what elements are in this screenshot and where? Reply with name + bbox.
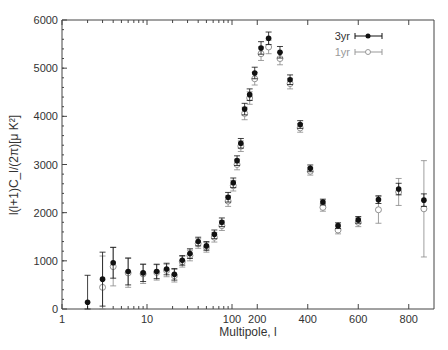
svg-text:800: 800 [400, 313, 418, 325]
svg-text:1000: 1000 [34, 255, 58, 267]
legend-label-3yr: 3yr [335, 30, 351, 42]
svg-text:6000: 6000 [34, 14, 58, 26]
svg-text:5000: 5000 [34, 62, 58, 74]
svg-text:4000: 4000 [34, 110, 58, 122]
plot-frame [62, 20, 434, 309]
svg-text:0: 0 [52, 303, 58, 315]
axis-ticks: 0100020003000400050006000110100200400600… [34, 14, 418, 325]
legend-marker-1yr-icon [355, 49, 382, 55]
legend: 3yr 1yr [335, 30, 382, 58]
legend-label-1yr: 1yr [335, 46, 351, 58]
y-axis-label: l(l+1)C_l/(2π)[μ K²] [7, 115, 21, 215]
svg-text:1: 1 [59, 313, 65, 325]
series-3yr [85, 32, 427, 309]
power-spectrum-chart: 0100020003000400050006000110100200400600… [0, 0, 448, 350]
legend-marker-3yr-icon [355, 33, 382, 39]
svg-text:10: 10 [141, 313, 153, 325]
x-axis-label: Multipole, l [219, 325, 276, 339]
svg-text:100: 100 [223, 313, 241, 325]
svg-text:3000: 3000 [34, 159, 58, 171]
svg-text:2000: 2000 [34, 207, 58, 219]
svg-text:600: 600 [349, 313, 367, 325]
series-1yr [100, 40, 427, 309]
svg-text:400: 400 [299, 313, 317, 325]
svg-text:200: 200 [248, 313, 266, 325]
